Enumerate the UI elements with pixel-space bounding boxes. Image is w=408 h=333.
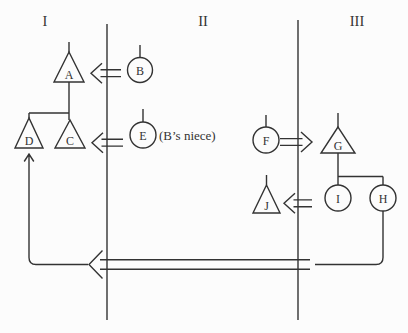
h-descent-line bbox=[315, 211, 383, 265]
descent-lines-A-DC bbox=[29, 82, 69, 120]
marriage-arrow-B-to-A bbox=[91, 63, 121, 83]
column-II-label: II bbox=[198, 13, 208, 29]
column-I-label: I bbox=[43, 13, 48, 29]
person-H-label: H bbox=[379, 192, 388, 206]
person-J-label: J bbox=[264, 199, 269, 213]
person-F-label: F bbox=[263, 134, 270, 148]
person-G-label: G bbox=[334, 139, 343, 153]
marriage-arrow-F-to-G bbox=[280, 132, 312, 152]
e-niece-annotation: (B’s niece) bbox=[159, 128, 216, 143]
person-B-label: B bbox=[136, 64, 144, 78]
person-E-label: E bbox=[139, 129, 146, 143]
diagram-canvas: I II III A B D C E F G I H J (B’s niece) bbox=[0, 0, 408, 333]
kinship-exchange-diagram: I II III A B D C E F G I H J (B’s niece) bbox=[0, 0, 408, 333]
person-A-label: A bbox=[65, 68, 74, 82]
up-arrow-to-D bbox=[24, 154, 88, 265]
column-III-label: III bbox=[350, 13, 365, 29]
long-exchange-arrow bbox=[89, 251, 310, 279]
person-I-label: I bbox=[336, 192, 340, 206]
descent-lines-G-IH bbox=[338, 153, 383, 185]
person-D-label: D bbox=[25, 134, 34, 148]
person-C-label: C bbox=[66, 134, 74, 148]
